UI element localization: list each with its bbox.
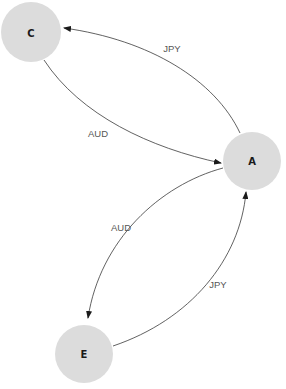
edge-a-to-c: JPY (64, 28, 240, 133)
node-c: C (1, 2, 61, 62)
edge-a-to-e: AUD (88, 168, 223, 318)
currency-flow-diagram: JPY AUD AUD JPY C A E (0, 0, 286, 389)
edge-line-c-to-a (44, 60, 221, 163)
edge-line-a-to-c (64, 28, 240, 133)
node-e: E (55, 325, 113, 383)
edge-label-e-to-a: JPY (209, 279, 227, 290)
node-a: A (223, 132, 281, 190)
edge-e-to-a: JPY (113, 192, 246, 346)
edge-label-c-to-a: AUD (88, 128, 108, 139)
edge-line-a-to-e (88, 168, 223, 318)
edge-c-to-a: AUD (44, 60, 221, 163)
edge-label-a-to-c: JPY (163, 43, 181, 54)
node-c-label: C (27, 28, 34, 39)
edge-label-a-to-e: AUD (111, 222, 131, 233)
node-a-label: A (248, 156, 256, 167)
node-e-label: E (81, 349, 88, 360)
edge-line-e-to-a (113, 192, 246, 346)
